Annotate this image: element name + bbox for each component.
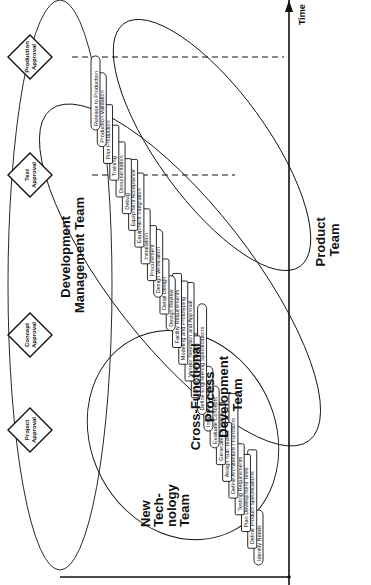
diagram-canvas: Time ProjectApprovalConceptApprovalTestA…: [0, 0, 371, 585]
team-labels: Development Management Team New Tech- no…: [58, 197, 342, 527]
milestone-label: ConceptApproval: [24, 322, 37, 348]
milestone-label: ProductionApproval: [24, 41, 37, 73]
milestone-concept-approval: ConceptApproval: [8, 313, 52, 357]
development-management-team-label: Development Management Team: [58, 197, 87, 313]
milestone-label: ProjectApproval: [24, 417, 37, 443]
diamond-icon: [8, 153, 52, 197]
arrow-head-icon: [285, 0, 293, 12]
milestone-production-approval: ProductionApproval: [8, 35, 52, 79]
task-release-to-production: Release to Production: [91, 56, 100, 130]
new-technology-team-label: New Tech- nology Team: [138, 481, 192, 527]
product-team-label: Product Team: [313, 214, 342, 267]
milestone-project-approval: ProjectApproval: [8, 408, 52, 452]
cross-functional-team-region: [0, 66, 364, 483]
origin-dot: [287, 575, 291, 579]
time-axis-label: Time: [297, 4, 307, 25]
milestone-test-approval: TestApproval: [8, 153, 52, 197]
task-label: Release to Production: [93, 71, 99, 126]
diamond-icon: [8, 313, 52, 357]
diamond-icon: [8, 35, 52, 79]
diamond-icon: [8, 408, 52, 452]
